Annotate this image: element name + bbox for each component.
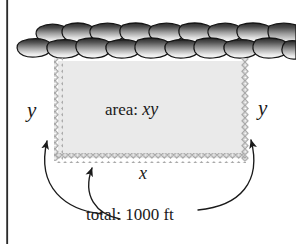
label-area-expression: xy (142, 99, 158, 119)
label-x: x (139, 163, 147, 184)
label-y-left: y (27, 98, 36, 123)
label-y-right: y (258, 96, 267, 121)
label-total-fence: total: 1000 ft (86, 205, 174, 225)
stone-wall (17, 23, 296, 59)
page-margin-rule (6, 0, 8, 244)
label-area: area: xy (105, 99, 158, 120)
label-area-prefix: area: (105, 100, 142, 119)
